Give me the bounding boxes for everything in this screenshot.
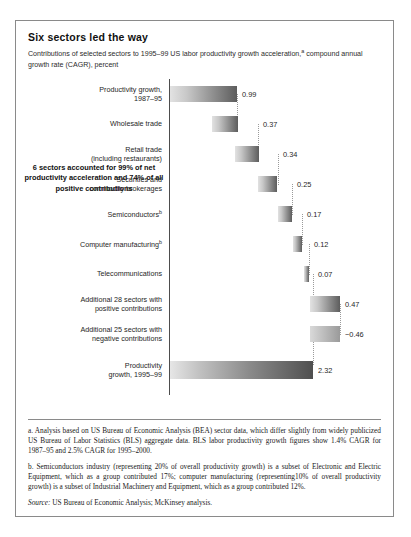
row-label-line1: Productivity bbox=[125, 360, 162, 369]
row-label: Securities and commodity brokerages bbox=[16, 174, 162, 193]
waterfall-bar bbox=[278, 206, 292, 222]
divider bbox=[28, 419, 381, 420]
bar-value-label: 0.34 bbox=[283, 149, 297, 158]
row-label: Computer manufacturingb bbox=[16, 238, 162, 249]
table-row: Wholesale trade 0.37 bbox=[16, 109, 393, 139]
row-label-line1: Securities and bbox=[116, 174, 162, 183]
row-label-line2: 1987–95 bbox=[134, 94, 162, 103]
row-label-line1: Telecommunications bbox=[97, 269, 162, 278]
exhibit-subtitle: Contributions of selected sectors to 199… bbox=[28, 48, 381, 70]
row-label-line1: Retail trade bbox=[125, 144, 162, 153]
row-label: Productivity growth, 1987–95 bbox=[16, 84, 162, 103]
row-label-line2: positive contributions bbox=[95, 304, 162, 313]
footnote-marker-b: b bbox=[159, 238, 162, 244]
subtitle-text-1: Contributions of selected sectors to 199… bbox=[28, 50, 301, 58]
row-label: Retail trade (including restaurants) bbox=[16, 144, 162, 163]
waterfall-bar bbox=[304, 266, 309, 282]
row-label-line1: Additional 28 sectors with bbox=[80, 294, 162, 303]
table-row: Computer manufacturingb 0.12 bbox=[16, 229, 393, 259]
table-row: Securities and commodity brokerages 0.25 bbox=[16, 169, 393, 199]
waterfall-bar-total bbox=[170, 361, 313, 379]
waterfall-bar bbox=[258, 176, 277, 192]
source-label: Source: bbox=[28, 498, 50, 507]
row-label: Wholesale trade bbox=[16, 119, 162, 129]
footnote-b: b. Semiconductors industry (representing… bbox=[28, 462, 381, 492]
row-label-line1: Productivity growth, bbox=[99, 84, 162, 93]
bar-value-label: 0.17 bbox=[307, 209, 321, 218]
row-label-line1: Additional 25 sectors with bbox=[80, 324, 162, 333]
row-label: Telecommunications bbox=[16, 269, 162, 279]
waterfall-bar-negative bbox=[310, 326, 340, 342]
row-label-line1: Wholesale trade bbox=[110, 119, 162, 128]
exhibit-panel: Six sectors led the way Contributions of… bbox=[15, 20, 394, 517]
bar-value-label: 0.37 bbox=[263, 119, 277, 128]
table-row: Semiconductorsb 0.17 bbox=[16, 199, 393, 229]
footnote-marker-b: b bbox=[159, 208, 162, 214]
bar-value-label: 2.32 bbox=[318, 365, 332, 374]
bar-value-label: 0.07 bbox=[318, 269, 332, 278]
row-label-line2: commodity brokerages bbox=[89, 184, 162, 193]
table-row: Productivity growth, 1995–99 2.32 bbox=[16, 355, 393, 385]
bar-value-label: 0.99 bbox=[242, 89, 256, 98]
waterfall-bar bbox=[310, 296, 340, 312]
row-label: Semiconductorsb bbox=[16, 208, 162, 219]
page-title: Six sectors led the way bbox=[28, 31, 381, 43]
source-line: Source: US Bureau of Economic Analysis; … bbox=[28, 498, 381, 508]
row-label-line2: growth, 1995–99 bbox=[108, 370, 162, 379]
footnotes-section: a. Analysis based on US Bureau of Econom… bbox=[16, 419, 393, 516]
footnote-a: a. Analysis based on US Bureau of Econom… bbox=[28, 426, 381, 456]
table-row: Telecommunications 0.07 bbox=[16, 259, 393, 289]
table-row: Productivity growth, 1987–95 0.99 bbox=[16, 79, 393, 109]
waterfall-bar bbox=[235, 146, 259, 162]
table-row: Additional 28 sectors with positive cont… bbox=[16, 289, 393, 319]
row-label-line1: Computer manufacturing bbox=[80, 240, 159, 249]
row-label: Productivity growth, 1995–99 bbox=[16, 360, 162, 379]
bar-value-label: 0.25 bbox=[297, 179, 311, 188]
waterfall-bar bbox=[212, 116, 238, 132]
row-label: Additional 28 sectors with positive cont… bbox=[16, 294, 162, 313]
bar-value-label: −0.46 bbox=[345, 329, 364, 338]
bar-value-label: 0.47 bbox=[345, 299, 359, 308]
bar-value-label: 0.12 bbox=[314, 239, 328, 248]
waterfall-chart: 6 sectors accounted for 99% of net produ… bbox=[16, 77, 393, 399]
row-label: Additional 25 sectors with negative cont… bbox=[16, 324, 162, 343]
source-text: US Bureau of Economic Analysis; McKinsey… bbox=[50, 498, 212, 507]
row-label-line1: Semiconductors bbox=[108, 210, 160, 219]
table-row: Retail trade (including restaurants) 0.3… bbox=[16, 139, 393, 169]
table-row: Additional 25 sectors with negative cont… bbox=[16, 319, 393, 349]
exhibit-header: Six sectors led the way Contributions of… bbox=[16, 21, 393, 70]
row-label-line2: (including restaurants) bbox=[91, 154, 162, 163]
row-label-line2: negative contributions bbox=[92, 334, 162, 343]
waterfall-bar bbox=[170, 86, 237, 102]
waterfall-bar bbox=[293, 236, 302, 252]
